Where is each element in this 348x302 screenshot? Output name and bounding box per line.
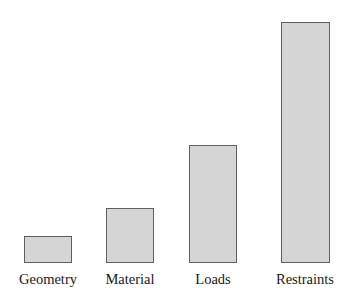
x-axis-label-loads: Loads	[178, 271, 248, 287]
x-axis-label-restraints: Restraints	[262, 271, 348, 287]
bar-chart: Geometry Material Loads Restraints	[0, 0, 348, 302]
x-axis-label-geometry: Geometry	[4, 271, 92, 287]
bar-material[interactable]	[106, 208, 154, 263]
bar-loads[interactable]	[189, 145, 237, 263]
bar-restraints[interactable]	[281, 22, 330, 263]
x-axis-label-material: Material	[88, 271, 172, 287]
bar-geometry[interactable]	[24, 236, 72, 263]
plot-area: Geometry Material Loads Restraints	[0, 0, 348, 302]
